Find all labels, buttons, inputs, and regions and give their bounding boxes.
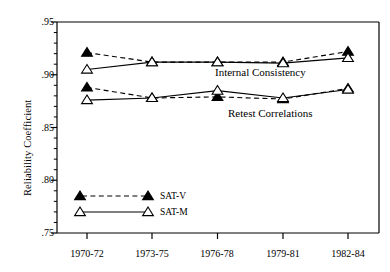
legend-marker-right-sat-m (143, 207, 154, 216)
legend-marker-left-sat-m (75, 207, 86, 216)
data-point-internal-consistency-sat-v-0 (82, 48, 93, 57)
data-point-retest-correlations-sat-v-0 (82, 82, 93, 91)
chart-figure: Reliability Coefficient .95 .90 .85 .80 … (0, 0, 390, 272)
data-point-retest-correlations-sat-m-0 (82, 95, 93, 104)
legend-marker-left-sat-v (75, 191, 86, 200)
data-point-retest-correlations-sat-m-2 (212, 86, 223, 95)
plot-canvas (0, 0, 390, 272)
legend-marker-right-sat-v (143, 191, 154, 200)
data-point-internal-consistency-sat-m-2 (212, 57, 223, 66)
